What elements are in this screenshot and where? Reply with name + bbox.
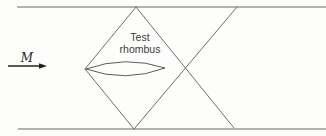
bow-shock-lower — [85, 69, 134, 129]
test-section-schematic: M Test rhombus — [0, 0, 326, 136]
test-rhombus-label-line2: rhombus — [120, 43, 161, 55]
flow-arrow-head-icon — [39, 63, 47, 69]
shock-lines — [85, 7, 237, 129]
schematic-figure: M Test rhombus — [0, 0, 326, 136]
airfoil-model-outline — [86, 62, 165, 76]
tunnel-walls — [17, 7, 326, 129]
test-rhombus-label-line1: Test — [130, 31, 149, 43]
bow-shock-upper — [85, 7, 136, 69]
reflected-shock-lower — [134, 7, 237, 129]
mach-number-label: M — [20, 51, 34, 65]
